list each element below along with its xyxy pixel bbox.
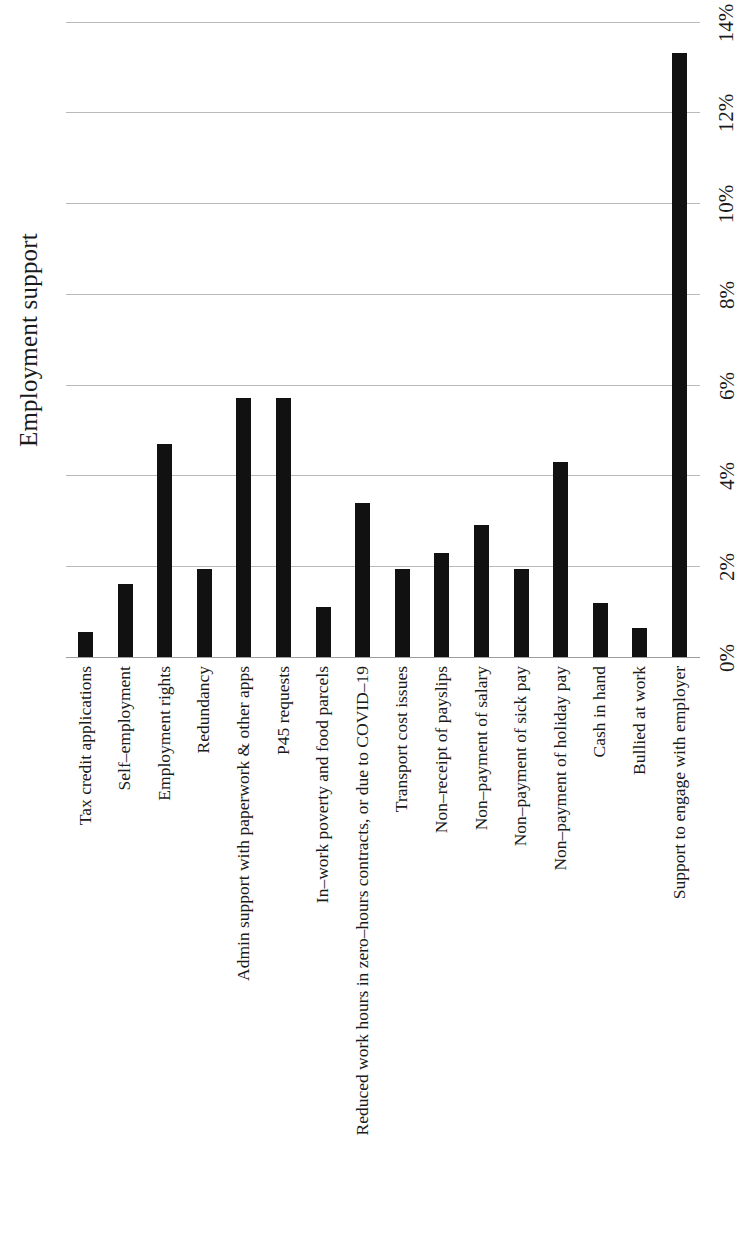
bar	[157, 444, 172, 657]
y-axis-tick-label: 2%	[700, 557, 753, 577]
y-axis-title-text: Employment support	[15, 233, 43, 447]
x-axis-category-label-text: Self–employment	[116, 666, 134, 790]
y-axis-tick-label-text: 0%	[717, 644, 737, 672]
x-axis-category-label-text: Reduced work hours in zero–hours contrac…	[354, 666, 372, 1135]
x-axis-category-label-text: Non–receipt of payslips	[433, 666, 451, 833]
y-axis-tick-label: 6%	[700, 376, 753, 396]
y-axis-tick-label-text: 4%	[717, 462, 737, 490]
x-axis-category-label-text: Non–payment of holiday pay	[552, 666, 570, 871]
bar	[632, 628, 647, 658]
x-axis-category-label-text: Employment rights	[156, 666, 174, 801]
y-axis-tick-label: 0%	[700, 648, 753, 668]
bar	[434, 553, 449, 657]
y-axis-tick-label: 12%	[700, 103, 753, 123]
x-axis-category-label: Bullied at work	[630, 660, 650, 1205]
bar	[672, 53, 687, 657]
x-axis-category-label: Reduced work hours in zero–hours contrac…	[353, 660, 373, 1205]
x-axis-category-label: Non–payment of salary	[472, 660, 492, 1205]
y-axis-tick-label-text: 14%	[717, 3, 737, 42]
x-axis-category-label: Non–payment of holiday pay	[551, 660, 571, 1205]
axis-baseline	[66, 657, 700, 658]
x-axis-category-label: Tax credit applications	[76, 660, 96, 1205]
x-axis-category-label-text: Transport cost issues	[394, 666, 412, 812]
x-axis-category-label: Cash in hand	[590, 660, 610, 1205]
x-axis-category-label: Self–employment	[115, 660, 135, 1205]
y-axis-tick-label-text: 10%	[717, 185, 737, 224]
x-axis-category-label-text: Tax credit applications	[77, 666, 95, 825]
x-axis-category-label-text: Non–payment of salary	[473, 666, 491, 830]
x-axis-category-label: Non–receipt of payslips	[432, 660, 452, 1205]
x-axis-category-label: Employment rights	[155, 660, 175, 1205]
gridline	[66, 112, 700, 113]
x-axis-category-label: In–work poverty and food parcels	[313, 660, 333, 1205]
y-axis-tick-label: 8%	[700, 285, 753, 305]
bar	[474, 525, 489, 657]
x-axis-category-label: Admin support with paperwork & other app…	[234, 660, 254, 1205]
gridline	[66, 294, 700, 295]
x-axis-category-label-text: Support to engage with employer	[671, 666, 689, 899]
x-axis-category-label: Transport cost issues	[392, 660, 412, 1205]
bar	[78, 632, 93, 657]
bar	[395, 569, 410, 658]
y-axis-tick-label-text: 2%	[717, 553, 737, 581]
bar	[118, 584, 133, 657]
y-axis-tick-labels: 0%2%4%6%8%10%12%14%	[700, 0, 753, 680]
x-axis-category-label-text: Redundancy	[196, 666, 214, 753]
bar-chart-figure: Employment support 0%2%4%6%8%10%12%14% T…	[0, 0, 753, 1247]
y-axis-tick-label-text: 12%	[717, 94, 737, 133]
bar	[355, 503, 370, 657]
x-axis-category-label-text: Non–payment of sick pay	[512, 666, 530, 846]
y-axis-tick-label: 4%	[700, 466, 753, 486]
x-axis-category-label: P45 requests	[274, 660, 294, 1205]
x-axis-category-label: Non–payment of sick pay	[511, 660, 531, 1205]
y-axis-tick-label-text: 8%	[717, 281, 737, 309]
x-axis-category-label: Support to engage with employer	[670, 660, 690, 1205]
plot-area	[66, 18, 700, 658]
x-axis-category-label-text: P45 requests	[275, 666, 293, 755]
x-axis-category-label: Redundancy	[194, 660, 214, 1205]
bar	[316, 607, 331, 657]
x-axis-category-labels: Tax credit applicationsSelf–employmentEm…	[66, 660, 700, 1220]
bar	[553, 462, 568, 657]
x-axis-category-label-text: Cash in hand	[592, 666, 610, 757]
x-axis-category-label-text: In–work poverty and food parcels	[314, 666, 332, 903]
bar	[276, 398, 291, 657]
y-axis-tick-label-text: 6%	[717, 372, 737, 400]
gridline	[66, 22, 700, 23]
x-axis-category-label-text: Bullied at work	[631, 666, 649, 775]
bar	[593, 603, 608, 657]
bar	[197, 569, 212, 658]
gridline	[66, 203, 700, 204]
x-axis-category-label-text: Admin support with paperwork & other app…	[235, 666, 253, 981]
y-axis-tick-label: 14%	[700, 13, 753, 33]
y-axis-title: Employment support	[0, 0, 58, 680]
gridline	[66, 385, 700, 386]
bar	[236, 398, 251, 657]
y-axis-tick-label: 10%	[700, 194, 753, 214]
bar	[514, 569, 529, 658]
